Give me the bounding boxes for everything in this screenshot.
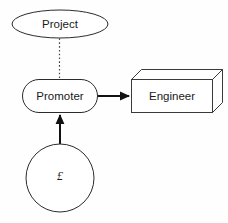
node-money[interactable]: £	[26, 144, 94, 212]
engineer-top-face	[132, 70, 223, 80]
node-engineer[interactable]: Engineer	[132, 70, 223, 113]
money-label: £	[57, 169, 63, 183]
project-label: Project	[42, 18, 79, 30]
diagram-canvas: Project Promoter Engineer £	[0, 0, 228, 223]
diagram-svg: Project Promoter Engineer £	[0, 0, 228, 223]
node-promoter[interactable]: Promoter	[23, 80, 98, 113]
engineer-label: Engineer	[149, 90, 195, 102]
promoter-label: Promoter	[36, 90, 83, 102]
node-project[interactable]: Project	[12, 10, 108, 38]
